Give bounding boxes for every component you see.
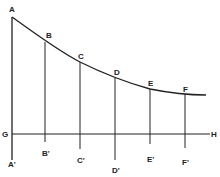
label-A: A xyxy=(9,5,15,14)
label-C-prime: C' xyxy=(77,156,85,165)
label-F: F xyxy=(183,85,188,94)
label-E: E xyxy=(148,79,154,88)
label-C: C xyxy=(78,52,84,61)
label-A-prime: A' xyxy=(8,160,16,169)
label-G: G xyxy=(2,130,8,139)
label-F-prime: F' xyxy=(182,158,189,167)
diagram-canvas: A B C D E F G H A' B' C' D' E' F' xyxy=(0,0,220,177)
label-D-prime: D' xyxy=(112,166,120,175)
label-B-prime: B' xyxy=(42,149,50,158)
label-E-prime: E' xyxy=(147,155,154,164)
label-D: D xyxy=(114,68,120,77)
label-B: B xyxy=(46,31,52,40)
label-H: H xyxy=(211,130,217,139)
curve-diagram: A B C D E F G H A' B' C' D' E' F' xyxy=(0,0,220,177)
decay-curve xyxy=(12,17,206,95)
